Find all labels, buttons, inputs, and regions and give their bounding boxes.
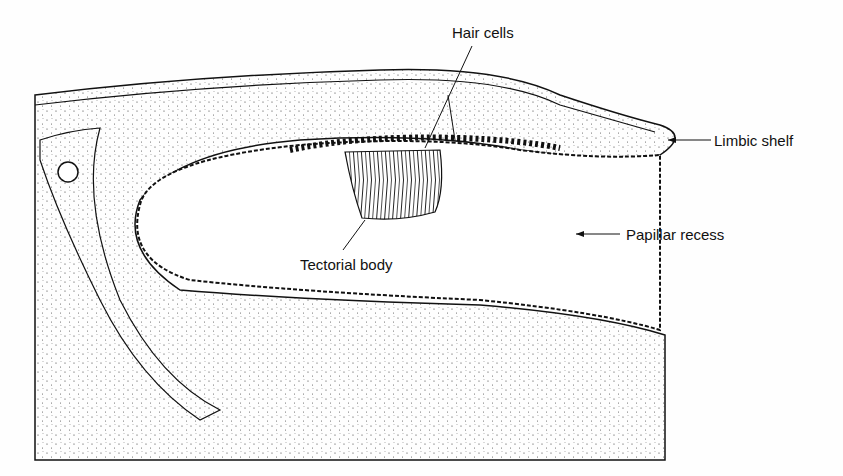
label-limbic-shelf: Limbic shelf <box>714 132 794 149</box>
vessel <box>58 162 78 182</box>
diagram-canvas: Hair cells Limbic shelf Tectorial body P… <box>0 0 843 476</box>
anatomy-drawing: Hair cells Limbic shelf Tectorial body P… <box>0 0 843 476</box>
tectorial-body <box>345 150 442 219</box>
label-papillar-recess: Papillar recess <box>626 226 724 243</box>
label-hair-cells: Hair cells <box>452 24 514 41</box>
label-tectorial-body: Tectorial body <box>300 256 393 273</box>
